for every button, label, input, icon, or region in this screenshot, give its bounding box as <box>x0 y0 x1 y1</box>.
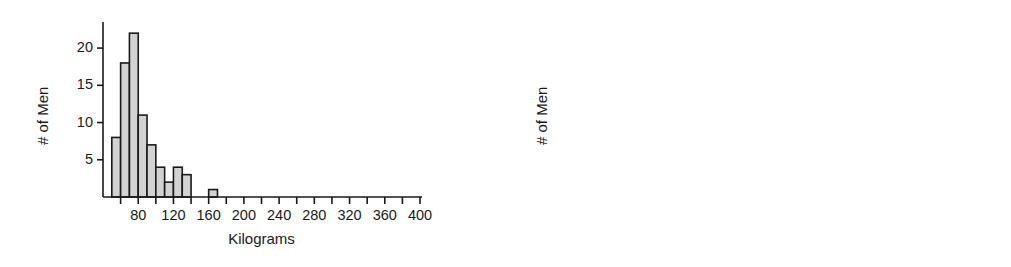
kilograms-y-axis-label: # of Men <box>34 87 51 145</box>
y-tick-label: 20 <box>63 39 93 55</box>
histogram-bar <box>165 182 174 197</box>
histogram-bar <box>209 190 218 197</box>
histogram-bar <box>156 167 165 197</box>
kilograms-x-axis-label: Kilograms <box>103 230 420 247</box>
pounds-plot-area <box>505 0 1011 267</box>
histogram-bar <box>147 145 156 197</box>
y-tick-label: 5 <box>63 151 93 167</box>
histogram-bar <box>182 175 191 197</box>
pounds-histogram-panel: # of Men Pounds <box>505 0 1011 267</box>
histogram-bar <box>138 115 147 197</box>
two-histogram-figure: # of Men Kilograms # of Men Pounds <box>0 0 1011 267</box>
x-tick-label: 400 <box>395 207 445 223</box>
histogram-bar <box>112 137 121 197</box>
histogram-bar <box>129 33 138 197</box>
pounds-y-axis-label: # of Men <box>533 87 550 145</box>
histogram-bar <box>121 63 130 197</box>
histogram-bar <box>173 167 182 197</box>
y-tick-label: 15 <box>63 76 93 92</box>
y-tick-label: 10 <box>63 114 93 130</box>
